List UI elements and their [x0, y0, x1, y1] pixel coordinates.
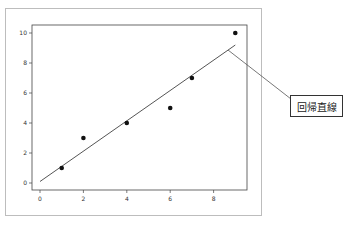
data-point: [59, 166, 64, 171]
x-tick-label: 0: [38, 195, 42, 202]
y-tick-label: 2: [23, 149, 27, 156]
data-point: [81, 136, 86, 141]
y-tick-label: 10: [19, 29, 27, 36]
y-tick-label: 0: [23, 179, 27, 186]
annotation-label: 回帰直線: [290, 95, 343, 117]
regression-line: [40, 45, 235, 182]
y-tick-label: 8: [23, 59, 27, 66]
data-point: [190, 76, 195, 81]
y-tick-label: 4: [23, 119, 27, 126]
x-tick-label: 2: [81, 195, 85, 202]
x-tick-label: 6: [168, 195, 172, 202]
plot-area: [32, 25, 247, 190]
data-point: [233, 31, 238, 36]
x-tick-label: 8: [212, 195, 216, 202]
annotation-leader-line: [228, 50, 291, 99]
data-point: [125, 121, 130, 126]
x-axis-ticks: 02468: [38, 190, 216, 202]
y-axis-ticks: 0246810: [19, 29, 32, 186]
data-point: [168, 106, 173, 111]
y-tick-label: 6: [23, 89, 27, 96]
x-tick-label: 4: [125, 195, 129, 202]
